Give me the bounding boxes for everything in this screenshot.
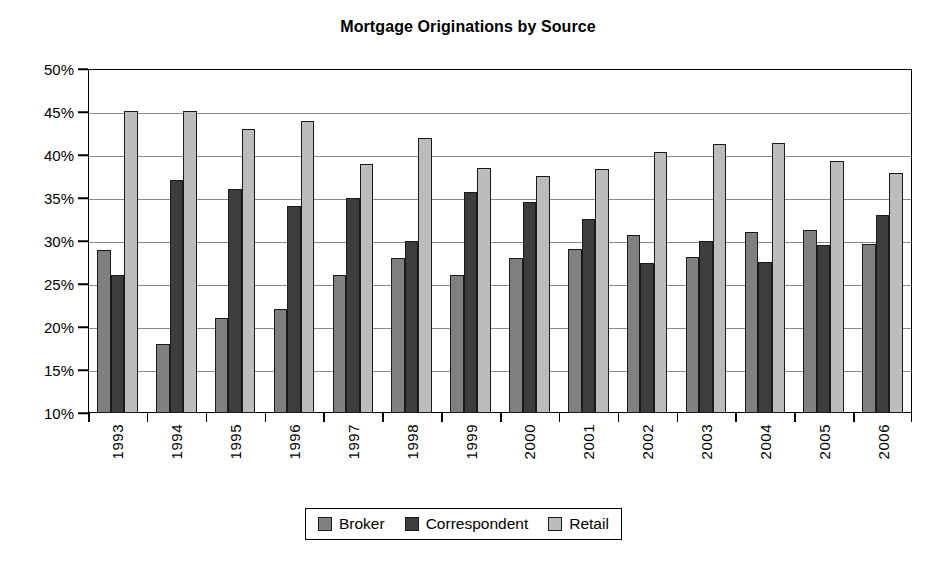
legend-swatch-icon <box>405 517 419 531</box>
y-axis-tick-mark <box>78 197 88 199</box>
legend-label: Correspondent <box>426 515 529 533</box>
x-axis-tick-mark <box>500 413 502 422</box>
y-axis-tick-label: 15% <box>44 362 74 379</box>
x-axis-tick-label: 1993 <box>109 424 126 459</box>
legend-label: Broker <box>339 515 385 533</box>
chart-container: Mortgage Originations by Source 50%45%40… <box>0 0 936 568</box>
x-axis-tick-label: 2001 <box>580 424 597 459</box>
x-axis-tick-label: 1996 <box>286 424 303 459</box>
x-axis-tick-mark <box>677 413 679 422</box>
gridline <box>89 156 911 157</box>
gridline <box>89 328 911 329</box>
x-axis-tick-label: 2000 <box>521 424 538 459</box>
gridline <box>89 242 911 243</box>
x-axis-tick-mark <box>382 413 384 422</box>
y-axis-tick-mark <box>78 154 88 156</box>
gridline <box>89 285 911 286</box>
legend-swatch-icon <box>318 517 332 531</box>
x-axis-tick-label: 2006 <box>875 424 892 459</box>
y-axis-tick-mark <box>78 68 88 70</box>
x-axis-tick-mark <box>88 413 90 422</box>
x-axis-tick-mark <box>911 413 913 422</box>
x-axis-tick-label: 2004 <box>757 424 774 459</box>
x-axis-tick-label: 2002 <box>639 424 656 459</box>
x-axis-tick-mark <box>794 413 796 422</box>
y-axis-tick-label: 30% <box>44 233 74 250</box>
gridline <box>89 199 911 200</box>
y-axis-tick-mark <box>78 412 88 414</box>
x-axis-tick-label: 1998 <box>404 424 421 459</box>
y-axis: 50%45%40%35%30%25%20%15%10% <box>0 0 88 568</box>
x-axis-tick-label: 2003 <box>698 424 715 459</box>
x-axis-tick-label: 1994 <box>168 424 185 459</box>
x-axis-tick-label: 2005 <box>816 424 833 459</box>
x-axis-tick-mark <box>147 413 149 422</box>
legend-swatch-icon <box>548 517 562 531</box>
x-axis-tick-label: 1999 <box>463 424 480 459</box>
x-axis-tick-mark <box>323 413 325 422</box>
plot-area <box>88 69 912 413</box>
y-axis-tick-label: 45% <box>44 104 74 121</box>
chart-title: Mortgage Originations by Source <box>0 18 936 36</box>
legend-item: Retail <box>548 515 609 533</box>
y-axis-tick-label: 10% <box>44 405 74 422</box>
x-axis-tick-mark <box>441 413 443 422</box>
y-axis-tick-mark <box>78 326 88 328</box>
x-axis-tick-mark <box>735 413 737 422</box>
x-axis-tick-mark <box>265 413 267 422</box>
x-axis-tick-mark <box>618 413 620 422</box>
legend-label: Retail <box>569 515 609 533</box>
x-axis-tick-label: 1995 <box>227 424 244 459</box>
x-axis-tick-mark <box>559 413 561 422</box>
y-axis-tick-label: 50% <box>44 61 74 78</box>
y-axis-tick-mark <box>78 369 88 371</box>
legend-item: Correspondent <box>405 515 529 533</box>
y-axis-tick-mark <box>78 283 88 285</box>
x-axis-ticks <box>88 413 912 422</box>
x-axis-tick-mark <box>206 413 208 422</box>
y-axis-tick-label: 35% <box>44 190 74 207</box>
x-axis-tick-mark <box>853 413 855 422</box>
gridline <box>89 113 911 114</box>
y-axis-tick-label: 25% <box>44 276 74 293</box>
x-axis-labels: 1993199419951996199719981999200020012002… <box>88 424 912 498</box>
y-axis-tick-mark <box>78 240 88 242</box>
y-axis-tick-mark <box>78 111 88 113</box>
y-axis-tick-label: 20% <box>44 319 74 336</box>
gridline <box>89 371 911 372</box>
y-axis-tick-label: 40% <box>44 147 74 164</box>
legend-item: Broker <box>318 515 385 533</box>
x-axis-tick-label: 1997 <box>345 424 362 459</box>
chart-legend: BrokerCorrespondentRetail <box>305 508 622 540</box>
